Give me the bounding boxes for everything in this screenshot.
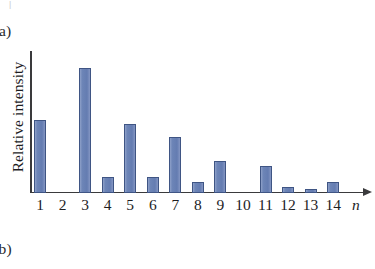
bar-n-9 xyxy=(214,161,226,193)
top-edge-artifact: | xyxy=(9,0,14,9)
bar-n-11 xyxy=(260,166,272,193)
bar-n-8 xyxy=(192,182,204,193)
bar-n-12 xyxy=(282,187,294,193)
x-tick-label-14: 14 xyxy=(319,195,347,215)
x-axis-variable-label: n xyxy=(352,195,360,215)
bar-n-1 xyxy=(34,120,46,194)
bar-chart-plot: Relative intensity 1234567891011121314 n xyxy=(0,45,375,220)
x-axis-tick-labels: 1234567891011121314 xyxy=(0,195,375,217)
figure-root: | (a) Relative intensity 123456789101112… xyxy=(0,0,375,269)
bar-n-14 xyxy=(327,182,339,193)
bar-n-3 xyxy=(79,68,91,193)
caption-a: (a) xyxy=(0,22,190,40)
bar-n-6 xyxy=(147,177,159,193)
bar-series xyxy=(0,45,375,193)
bar-n-5 xyxy=(124,124,136,193)
bar-n-4 xyxy=(102,177,114,193)
caption-b: (b) xyxy=(0,240,190,258)
bar-n-13 xyxy=(305,189,317,193)
bar-n-7 xyxy=(169,137,181,193)
